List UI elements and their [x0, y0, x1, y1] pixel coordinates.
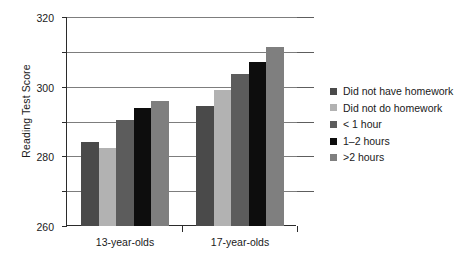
legend-swatch-icon	[330, 138, 337, 145]
legend-swatch-icon	[330, 121, 337, 128]
y-axis-title: Reading Test Score	[20, 41, 32, 181]
bar	[151, 101, 169, 226]
legend-label: < 1 hour	[343, 119, 382, 130]
legend-item: >2 hours	[330, 149, 458, 166]
legend-label: >2 hours	[343, 152, 384, 163]
x-tick-mark	[182, 226, 183, 232]
bar	[116, 120, 134, 226]
right-tick-mark	[297, 122, 314, 123]
x-tick-mark	[297, 226, 298, 232]
bar	[266, 47, 284, 226]
bar	[81, 142, 99, 226]
legend-label: Did not do homework	[343, 103, 442, 114]
y-tick-label: 260	[36, 221, 54, 233]
right-tick-mark	[297, 17, 314, 18]
legend-swatch-icon	[330, 88, 337, 95]
legend-swatch-icon	[330, 154, 337, 161]
y-tick-mark: 240	[62, 156, 67, 157]
x-axis-group-label: 17-year-olds	[211, 236, 269, 248]
y-tick-label: 280	[36, 151, 54, 163]
bar	[134, 108, 152, 226]
right-tick-mark	[297, 52, 314, 53]
right-tick-mark	[297, 191, 314, 192]
bar	[99, 148, 117, 226]
legend-label: Did not have homework	[343, 86, 453, 97]
legend-swatch-icon	[330, 104, 337, 111]
y-tick-mark: 260	[62, 122, 67, 123]
legend-item: Did not have homework	[330, 83, 458, 100]
bar	[249, 62, 267, 226]
bars-layer	[67, 17, 297, 226]
right-tick-mark	[297, 87, 314, 88]
bar	[231, 74, 249, 226]
x-axis-group-label: 13-year-olds	[96, 236, 154, 248]
legend-item: 1–2 hours	[330, 133, 458, 150]
legend-item: Did not do homework	[330, 100, 458, 117]
bar	[196, 106, 214, 226]
y-tick-mark: 300	[62, 52, 67, 53]
right-tick-mark	[297, 156, 314, 157]
bar-chart: Reading Test Score 200220240260280300320…	[0, 0, 461, 263]
y-tick-mark: 320	[62, 17, 67, 18]
plot-area: 200220240260280300320 13-year-olds17-yea…	[66, 17, 296, 226]
y-tick-label: 300	[36, 82, 54, 94]
legend: Did not have homeworkDid not do homework…	[330, 83, 458, 166]
y-tick-mark: 280	[62, 87, 67, 88]
y-tick-mark: 200	[62, 226, 67, 227]
legend-label: 1–2 hours	[343, 136, 390, 147]
y-tick-label: 320	[36, 12, 54, 24]
y-tick-mark: 220	[62, 191, 67, 192]
legend-item: < 1 hour	[330, 116, 458, 133]
bar	[214, 90, 232, 226]
